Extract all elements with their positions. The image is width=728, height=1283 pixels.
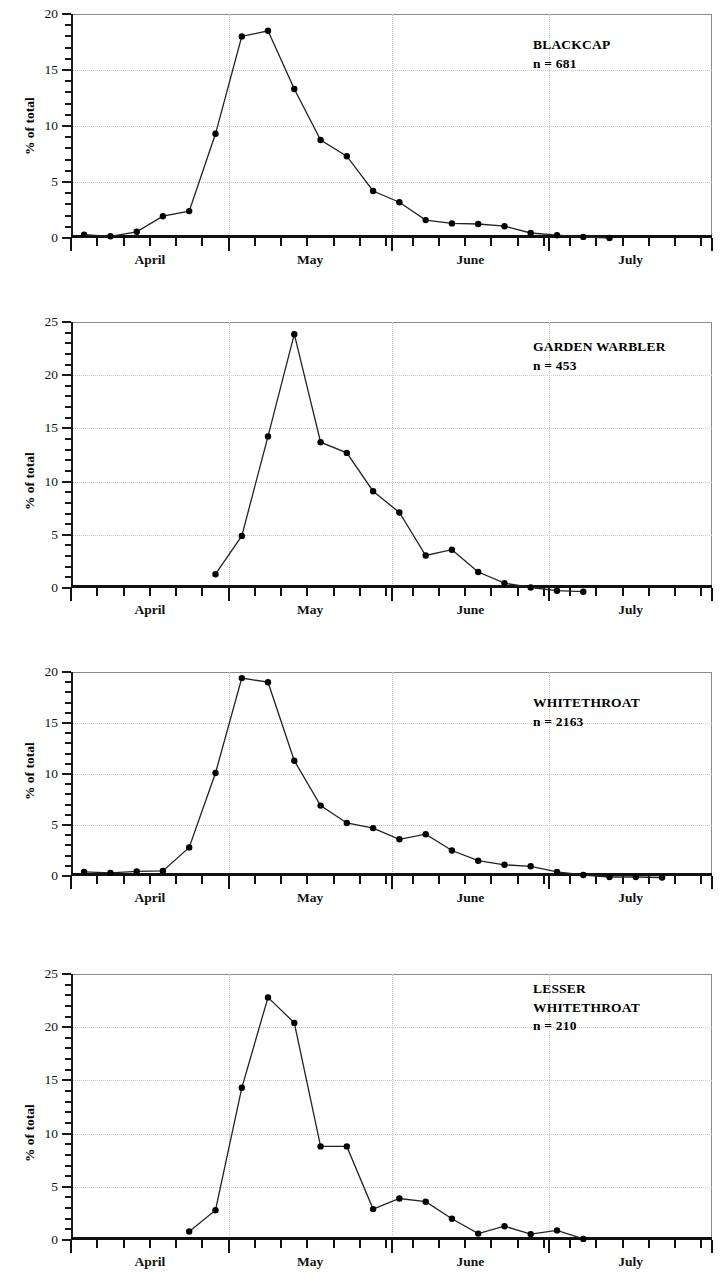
data-point-marker [107,233,113,239]
x-axis-month-label: May [297,890,323,906]
data-point-marker [239,675,245,681]
data-point-marker [265,433,271,439]
data-point-marker [291,86,297,92]
y-tick-major [62,773,71,775]
data-point-marker [449,1216,455,1222]
data-point-marker [239,33,245,39]
data-point-marker [212,770,218,776]
data-point-marker [265,994,271,1000]
data-point-marker [344,450,350,456]
y-tick-label: 5 [51,818,58,832]
y-tick-label: 20 [45,1020,59,1034]
data-point-marker [580,589,586,595]
y-tick-major [62,125,71,127]
data-point-marker [317,439,323,445]
x-axis-month-label: June [456,1254,484,1270]
data-point-marker [317,137,323,143]
data-series [71,14,712,242]
data-point-marker [239,1085,245,1091]
data-point-marker [317,802,323,808]
y-tick-major [62,321,71,323]
data-point-marker [501,862,507,868]
y-tick-major [62,481,71,483]
data-point-marker [107,870,113,876]
sample-size-label: n = 681 [533,55,610,74]
data-point-marker [423,552,429,558]
data-point-marker [554,869,560,875]
data-point-marker [212,1207,218,1213]
data-point-marker [186,208,192,214]
data-point-marker [554,1227,560,1233]
data-point-marker [239,533,245,539]
chart-panel: 05101520AprilMayJuneJuly% of totalWHITET… [0,672,728,912]
chart-panel: 0510152025AprilMayJuneJuly% of totalLESS… [0,974,728,1276]
data-point-marker [659,874,665,880]
x-axis-month-label: June [456,890,484,906]
data-point-marker [344,820,350,826]
data-point-marker [528,1231,534,1237]
data-point-marker [423,1199,429,1205]
species-title: WHITETHROAT [533,999,640,1018]
x-axis-month-label: May [297,1254,323,1270]
data-point-marker [291,1020,297,1026]
y-tick-major [62,534,71,536]
data-point-marker [501,580,507,586]
y-tick-label: 20 [45,7,59,21]
data-point-marker [370,188,376,194]
data-point-marker [160,868,166,874]
data-point-marker [160,213,166,219]
data-point-marker [291,758,297,764]
y-tick-label: 5 [51,528,58,542]
data-point-marker [265,28,271,34]
series-line [189,997,583,1239]
chart-panel: 05101520AprilMayJuneJuly% of totalBLACKC… [0,14,728,274]
data-point-marker [370,825,376,831]
data-point-marker [212,571,218,577]
y-tick-major [62,722,71,724]
y-tick-major [62,1026,71,1028]
data-point-marker [501,1223,507,1229]
y-tick-major [62,1186,71,1188]
data-point-marker [475,1230,481,1236]
species-title: WHITETHROAT [533,694,640,713]
y-tick-label: 25 [45,967,59,981]
y-tick-label: 15 [45,716,59,730]
sample-size-label: n = 453 [533,357,666,376]
data-point-marker [528,863,534,869]
y-tick-label: 5 [51,175,58,189]
y-tick-label: 10 [45,767,59,781]
x-axis-month-label: July [618,252,643,268]
species-title: LESSER [533,980,640,999]
data-point-marker [528,230,534,236]
sample-size-label: n = 2163 [533,713,640,732]
chart-annotation: LESSERWHITETHROATn = 210 [533,980,640,1036]
data-point-marker [528,584,534,590]
chart-annotation: WHITETHROATn = 2163 [533,694,640,731]
y-tick-label: 20 [45,368,59,382]
y-tick-label: 0 [51,231,58,245]
data-point-marker [134,868,140,874]
data-point-marker [633,874,639,880]
y-axis-title: % of total [22,742,38,800]
data-point-marker [81,231,87,237]
y-tick-label: 15 [45,63,59,77]
y-tick-major [62,671,71,673]
species-title: GARDEN WARBLER [533,338,666,357]
y-tick-label: 0 [51,869,58,883]
chart-annotation: GARDEN WARBLERn = 453 [533,338,666,375]
chart-annotation: BLACKCAPn = 681 [533,36,610,73]
y-tick-label: 25 [45,315,59,329]
x-axis-month-label: May [297,602,323,618]
data-point-marker [554,232,560,238]
x-axis-month-label: April [134,252,165,268]
data-point-marker [606,235,612,241]
data-point-marker [81,869,87,875]
data-point-marker [554,588,560,594]
y-axis-title: % of total [22,1104,38,1162]
y-axis-title: % of total [22,452,38,510]
y-tick-label: 0 [51,581,58,595]
y-tick-label: 10 [45,1127,59,1141]
data-point-marker [212,131,218,137]
data-point-marker [344,153,350,159]
y-tick-label: 5 [51,1180,58,1194]
